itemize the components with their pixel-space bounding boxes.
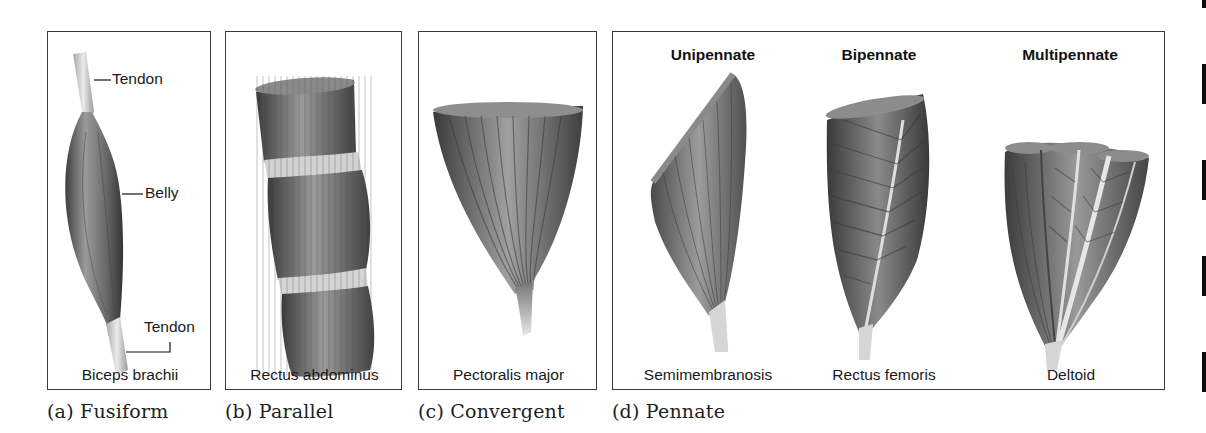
belly-label: Belly [145, 184, 179, 202]
edge-bar [1202, 256, 1206, 296]
caption-parallel: (b) Parallel [225, 400, 334, 422]
muscle-name-semimembranosis: Semimembranosis [623, 366, 793, 384]
edge-bar [1202, 160, 1206, 200]
edge-bar [1202, 352, 1206, 392]
muscle-name-deltoid: Deltoid [1013, 366, 1129, 384]
heading-unipennate: Unipennate [653, 46, 773, 64]
panel-fusiform: Tendon Belly Tendon Biceps brachii [47, 31, 211, 390]
bipennate-muscle-illustration [813, 80, 953, 360]
panel-pennate: Unipennate Semimembranosis Bipennate [612, 31, 1165, 390]
tendon-top-label: Tendon [112, 70, 163, 88]
parallel-muscle-illustration [226, 32, 403, 391]
convergent-muscle-illustration [419, 32, 598, 391]
unipennate-muscle-illustration [633, 72, 773, 352]
panel-convergent: Pectoralis major [418, 31, 597, 390]
heading-bipennate: Bipennate [829, 46, 929, 64]
multipennate-muscle-illustration [983, 112, 1163, 372]
edge-bar [1202, 0, 1206, 8]
caption-pennate: (d) Pennate [612, 400, 725, 422]
muscle-name-rectus-abdominus: Rectus abdominus [226, 366, 403, 384]
panel-parallel: Rectus abdominus [225, 31, 402, 390]
muscle-name-pectoralis-major: Pectoralis major [419, 366, 598, 384]
caption-convergent: (c) Convergent [418, 400, 565, 422]
caption-fusiform: (a) Fusiform [47, 400, 168, 422]
tendon-bottom-label: Tendon [144, 318, 195, 336]
muscle-name-biceps-brachii: Biceps brachii [48, 366, 212, 384]
muscle-name-rectus-femoris: Rectus femoris [809, 366, 959, 384]
heading-multipennate: Multipennate [1005, 46, 1135, 64]
edge-bar [1202, 64, 1206, 104]
